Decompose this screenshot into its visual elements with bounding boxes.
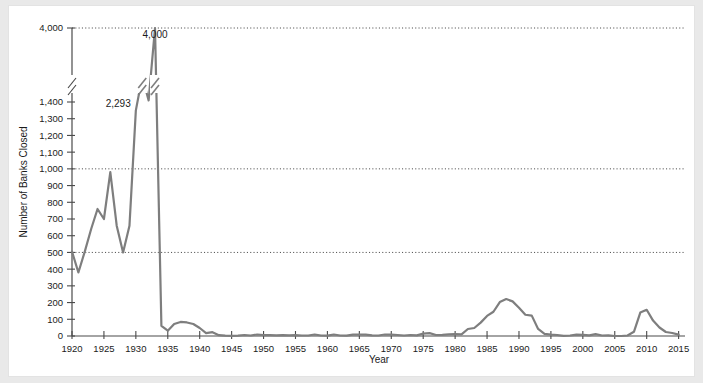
axis-break-group: [67, 75, 160, 95]
x-tick-label-1940: 1940: [189, 343, 210, 354]
annotation-label-1: 2,293: [106, 98, 131, 109]
x-tick-label-1990: 1990: [508, 343, 529, 354]
x-tick-label-1965: 1965: [349, 343, 370, 354]
x-tick-label-1945: 1945: [221, 343, 242, 354]
y-axis-title: Number of Banks Closed: [18, 126, 29, 237]
x-tick-label-1995: 1995: [540, 343, 561, 354]
y-tick-label-500: 500: [47, 247, 63, 258]
x-tick-label-1975: 1975: [413, 343, 434, 354]
x-tick-label-1920: 1920: [61, 343, 82, 354]
y-tick-label-200: 200: [47, 297, 63, 308]
x-tick-label-1970: 1970: [381, 343, 402, 354]
y-tick-label-400: 400: [47, 264, 63, 275]
chart-figure: 01002003004005006007008009001,0001,1001,…: [9, 6, 694, 376]
y-tick-label-1000: 1,000: [39, 163, 63, 174]
annotations-group: 4,0002,293: [106, 29, 168, 109]
gridlines-group: [72, 28, 685, 252]
x-tick-label-1950: 1950: [253, 343, 274, 354]
annotation-label-0: 4,000: [142, 29, 167, 40]
data-series-line: [72, 28, 679, 336]
y-tick-label-800: 800: [47, 197, 63, 208]
y-tick-label-1100: 1,100: [39, 147, 63, 158]
y-tick-label-600: 600: [47, 230, 63, 241]
y-axis-ticks-group: 01002003004005006007008009001,0001,1001,…: [39, 22, 75, 341]
y-tick-label-0: 0: [58, 330, 63, 341]
x-tick-label-2010: 2010: [636, 343, 657, 354]
x-tick-label-1930: 1930: [125, 343, 146, 354]
x-tick-label-1955: 1955: [285, 343, 306, 354]
x-tick-label-1935: 1935: [157, 343, 178, 354]
x-tick-label-2000: 2000: [572, 343, 593, 354]
x-tick-label-2015: 2015: [668, 343, 689, 354]
y-tick-label-100: 100: [47, 314, 63, 325]
y-tick-label-700: 700: [47, 213, 63, 224]
x-axis-title: Year: [369, 354, 390, 365]
bank-closures-line-chart: 01002003004005006007008009001,0001,1001,…: [9, 6, 694, 376]
x-tick-label-1960: 1960: [317, 343, 338, 354]
x-tick-label-2005: 2005: [604, 343, 625, 354]
x-tick-label-1980: 1980: [445, 343, 466, 354]
y-tick-label-1400: 1,400: [39, 96, 63, 107]
y-tick-label-1300: 1,300: [39, 113, 63, 124]
y-tick-label-300: 300: [47, 280, 63, 291]
y-tick-label-900: 900: [47, 180, 63, 191]
x-tick-label-1985: 1985: [476, 343, 497, 354]
y-tick-label-1200: 1,200: [39, 130, 63, 141]
y-tick-label-4000: 4,000: [39, 22, 63, 33]
x-tick-label-1925: 1925: [93, 343, 114, 354]
